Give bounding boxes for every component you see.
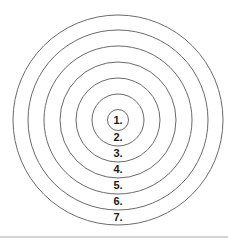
ring-label-3: 3. xyxy=(113,147,122,159)
ring-label-5: 5. xyxy=(113,179,122,191)
ring-label-2: 2. xyxy=(113,131,122,143)
ring-label-6: 6. xyxy=(113,195,122,207)
concentric-circles-diagram: 1.2.3.4.5.6.7. xyxy=(0,0,228,244)
ring-label-7: 7. xyxy=(113,211,122,223)
bottom-divider xyxy=(0,236,228,238)
ring-label-4: 4. xyxy=(113,163,122,175)
ring-label-1: 1. xyxy=(113,114,122,126)
